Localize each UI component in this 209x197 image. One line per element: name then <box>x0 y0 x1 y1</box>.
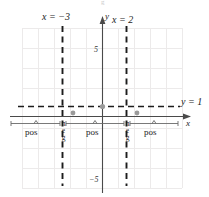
y-tick-minus-5: −5 <box>89 176 98 184</box>
coordinate-plane-svg <box>0 0 209 197</box>
y-axis-label: y <box>105 12 109 21</box>
x-axis-label: x <box>186 119 190 128</box>
interval-pos-far-right-label: pos <box>144 128 157 137</box>
y-tick-5: 5 <box>94 46 98 54</box>
hline-label: y = 1 <box>181 97 202 107</box>
interval-pos-middle-label: pos <box>86 128 99 137</box>
neg-left-g: g <box>60 134 67 141</box>
interval-pos-far-left-label: pos <box>25 128 38 137</box>
top-artifact-text: g <box>101 0 105 6</box>
sign-interval-brackets <box>11 121 178 127</box>
point-x-axis-left <box>71 111 76 116</box>
point-on-horizontal-asymptote <box>100 104 105 109</box>
x-axis <box>10 114 191 120</box>
vline-right-label: x = 2 <box>112 15 133 25</box>
point-x-axis-right <box>135 111 140 116</box>
vline-left-label: x = −3 <box>42 12 70 22</box>
interval-neg-right-label: n e g <box>124 120 131 142</box>
interval-neg-left-label: n e g <box>60 120 67 142</box>
neg-right-g: g <box>124 134 131 141</box>
figure-canvas: g x = −3 x = 2 y = 1 y x 5 −5 pos n e g … <box>0 0 209 197</box>
plot-points <box>71 104 140 116</box>
